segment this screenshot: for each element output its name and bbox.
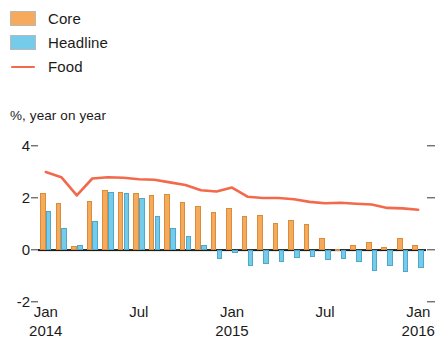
y-tick-mark: [31, 145, 38, 146]
legend-swatch-headline-icon: [10, 35, 36, 50]
x-tick-year: 2014: [29, 321, 62, 340]
food-line-path: [46, 172, 418, 210]
legend-label-headline: Headline: [48, 35, 108, 50]
chart-legend: Core Headline Food: [10, 6, 108, 78]
x-tick-year: 2016: [402, 321, 435, 340]
x-tick-label: Jul: [129, 302, 148, 321]
legend-label-food: Food: [48, 59, 83, 74]
y-tick-mark: [31, 249, 38, 250]
food-line-layer: [38, 146, 426, 302]
y-tick-label: -2: [17, 297, 30, 307]
x-axis-labels: Jan2014JulJan2015JulJan2016: [38, 302, 426, 352]
x-tick-label: Jul: [316, 302, 335, 321]
x-tick-month: Jan: [215, 302, 248, 321]
plot-area: 420-2: [38, 146, 426, 302]
y-tick-label: 2: [22, 193, 30, 203]
x-tick-month: Jul: [129, 302, 148, 321]
y-tick-mark: [31, 197, 38, 198]
x-tick-label: Jan2015: [215, 302, 248, 340]
y-axis-caption: %, year on year: [10, 108, 106, 123]
x-tick-month: Jan: [29, 302, 62, 321]
x-tick-month: Jan: [402, 302, 435, 321]
legend-item-food: Food: [10, 54, 108, 78]
legend-swatch-core-icon: [10, 11, 36, 26]
x-tick-month: Jul: [316, 302, 335, 321]
y-tick-label: 0: [22, 245, 30, 255]
legend-item-core: Core: [10, 6, 108, 30]
x-tick-label: Jan2014: [29, 302, 62, 340]
y-tick-mark-right: [427, 249, 435, 250]
x-tick-year: 2015: [215, 321, 248, 340]
y-tick-label: 4: [22, 141, 30, 151]
legend-item-headline: Headline: [10, 30, 108, 54]
y-tick-mark-right: [427, 145, 435, 146]
y-tick-mark-right: [427, 197, 435, 198]
legend-line-food-icon: [10, 59, 36, 74]
legend-label-core: Core: [48, 11, 81, 26]
x-tick-label: Jan2016: [402, 302, 435, 340]
